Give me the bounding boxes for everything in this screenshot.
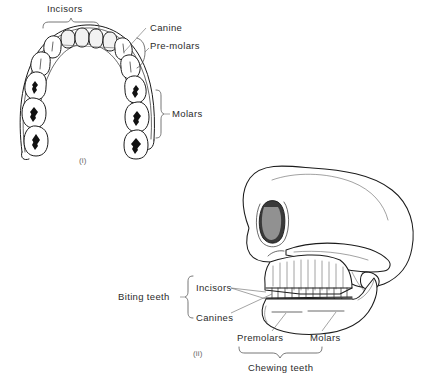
panel-skull-lateral: Biting teeth Incisors Canines Premolars …: [118, 166, 413, 373]
leader-incisors-skull: [231, 288, 266, 292]
label-premolars: Pre-molars: [150, 40, 200, 51]
label-molars: Molars: [172, 108, 203, 119]
tooth-incisor: [75, 28, 89, 47]
leader-incisors-skull-2: [231, 288, 266, 299]
brace-incisors: [43, 18, 99, 28]
caption-panel-ii: (ii): [193, 349, 203, 358]
label-incisors: Incisors: [47, 3, 83, 14]
label-chewing-teeth: Chewing teeth: [248, 362, 313, 373]
nasal-aperture: [268, 251, 284, 256]
label-incisors-skull: Incisors: [196, 282, 232, 293]
teeth-diagram-figure: Incisors Canine Pre-molars Molars (i): [0, 0, 431, 377]
brace-biting-teeth: [185, 276, 193, 318]
tooth-incisor: [89, 29, 103, 48]
label-molars-skull: Molars: [310, 332, 341, 343]
label-canine: Canine: [150, 22, 182, 33]
tooth-group-incisors: [61, 28, 117, 51]
label-canines-skull: Canines: [196, 312, 233, 323]
diagram-canvas: Incisors Canine Pre-molars Molars (i): [0, 0, 431, 377]
tooth-row-left: [22, 36, 61, 156]
tooth-row-right: [115, 38, 149, 159]
brace-chewing-teeth: [239, 347, 322, 358]
panel-upper-jaw-arch: Incisors Canine Pre-molars Molars (i): [20, 3, 202, 165]
label-biting-teeth: Biting teeth: [118, 291, 170, 302]
orbit-shading: [262, 207, 281, 240]
label-premolars-skull: Premolars: [237, 332, 283, 343]
caption-panel-i: (i): [79, 156, 87, 165]
brace-molars: [156, 90, 164, 138]
leader-premolars: [145, 48, 149, 52]
